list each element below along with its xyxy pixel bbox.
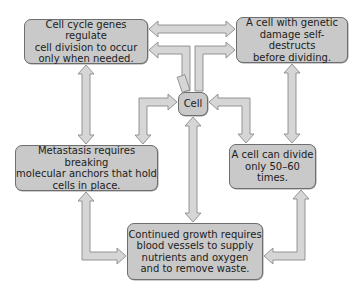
node-text-line: times. [232,172,314,184]
node-text-line: only 50–60 [232,161,314,173]
arrow-metastasis-continuedgrowth [78,192,126,264]
arrow-cell-metastasis [135,94,177,144]
node-genetic-damage: A cell with genetic damage self-destruct… [236,17,348,63]
node-text-line: blood vessels to supply [128,240,261,252]
arrow-dividelimit-continuedgrowth [264,190,309,264]
node-text-line: and to remove waste. [128,263,261,275]
arrow-geneticdamage-dividelimit [284,64,300,143]
node-continued-growth: Continued growth requires blood vessels … [127,223,263,280]
node-cell-cycle-genes: Cell cycle genes regulate cell division … [24,19,148,64]
node-text-line: only when needed. [25,53,147,65]
arrow-cell-continuedgrowth [185,117,201,222]
node-text-line: Cell cycle genes regulate [25,19,147,42]
node-text-line: cell division to occur [25,42,147,54]
center-label: Cell [184,98,203,110]
node-text-line: damage self-destructs [237,29,347,52]
node-text-line: cells in place. [16,180,157,192]
node-text-line: nutrients and oxygen [128,252,261,264]
node-text-line: Continued growth requires [128,229,261,241]
arrow-cell-dividelimit [209,94,254,143]
node-cell-center: Cell [178,92,208,116]
arrow-cellcycle-geneticdamage [149,21,235,37]
node-text-line: A cell can divide [232,149,314,161]
arrow-cellcycle-metastasis [78,65,94,144]
node-divide-limit: A cell can divide only 50–60 times. [229,144,316,189]
node-text-line: A cell with genetic [237,17,347,29]
node-text-line: molecular anchors that hold [16,168,157,180]
node-metastasis: Metastasis requires breaking molecular a… [15,145,158,191]
node-text-line: before dividing. [237,52,347,64]
arrow-cell-to-geneticdamage [195,42,235,91]
node-text-line: Metastasis requires breaking [16,145,157,168]
